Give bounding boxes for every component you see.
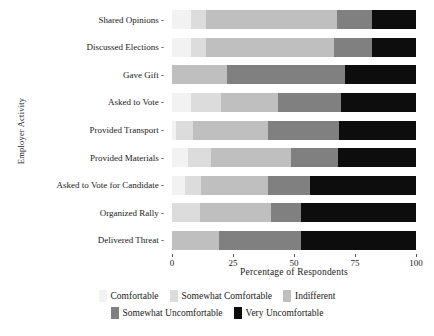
legend-item[interactable]: Very Uncomfortable (234, 307, 324, 319)
bar-segment (172, 203, 200, 222)
y-axis-tick-label: Organized Rally - (100, 208, 164, 218)
bar-segment (172, 176, 185, 195)
x-axis-title: Percentage of Respondents (172, 267, 416, 277)
legend-swatch-icon (234, 307, 242, 319)
bar-segment (206, 10, 338, 29)
bar-segment (221, 93, 278, 112)
legend-row-2: Somewhat UncomfortableVery Uncomfortable (0, 304, 434, 321)
chart-legend: ComfortableSomewhat ComfortableIndiffere… (0, 287, 434, 321)
legend-label: Indifferent (295, 290, 335, 302)
bar-segment (172, 148, 188, 167)
bar-segment (271, 203, 301, 222)
bar-segment (185, 176, 201, 195)
bar-segment (278, 93, 341, 112)
bar-segment (301, 203, 416, 222)
bar-row (172, 121, 416, 140)
bar-segment (172, 231, 219, 250)
bar-segment (219, 231, 301, 250)
bar-segment (191, 10, 205, 29)
bar-segment (172, 10, 191, 29)
y-axis-tick-label: Gave Gift - (123, 70, 164, 80)
legend-label: Somewhat Uncomfortable (123, 307, 223, 319)
bar-segment (341, 93, 416, 112)
y-axis-tick-label: Provided Materials - (90, 153, 164, 163)
bar-segment (201, 176, 268, 195)
chart-figure: Employer Activity Shared Opinions -Discu… (0, 0, 434, 336)
y-axis-tick-label: Asked to Vote for Candidate - (57, 180, 164, 190)
bar-segment (345, 65, 416, 84)
y-axis-tick-label: Asked to Vote - (108, 97, 164, 107)
bar-segment (339, 121, 416, 140)
y-axis-tick-label: Delivered Threat - (98, 235, 164, 245)
x-axis-tick (294, 254, 295, 257)
y-axis-tick-label: Shared Opinions - (99, 15, 165, 25)
legend-item[interactable]: Somewhat Uncomfortable (111, 307, 223, 319)
legend-swatch-icon (170, 290, 178, 302)
bar-row (172, 38, 416, 57)
x-axis-tick (233, 254, 234, 257)
bar-segment (211, 148, 291, 167)
bar-row (172, 231, 416, 250)
bar-row (172, 10, 416, 29)
bar-segment (227, 65, 345, 84)
legend-item[interactable]: Somewhat Comfortable (170, 290, 273, 302)
legend-item[interactable]: Comfortable (99, 290, 159, 302)
bar-segment (172, 38, 191, 57)
bar-segment (334, 38, 372, 57)
bar-segment (372, 38, 416, 57)
bar-segment (191, 93, 221, 112)
legend-swatch-icon (111, 307, 119, 319)
x-axis-tick (355, 254, 356, 257)
bar-row (172, 176, 416, 195)
bar-segment (193, 121, 268, 140)
bar-segment (310, 176, 416, 195)
plot-area (172, 6, 416, 254)
legend-row-1: ComfortableSomewhat ComfortableIndiffere… (0, 287, 434, 304)
bar-row (172, 65, 416, 84)
legend-label: Somewhat Comfortable (182, 290, 273, 302)
legend-swatch-icon (283, 290, 291, 302)
bar-row (172, 203, 416, 222)
bar-segment (200, 203, 272, 222)
bar-segment (301, 231, 416, 250)
bar-segment (338, 148, 416, 167)
legend-swatch-icon (99, 290, 107, 302)
legend-item[interactable]: Indifferent (283, 290, 335, 302)
y-axis-tick-labels: Shared Opinions -Discussed Elections -Ga… (0, 6, 168, 254)
x-axis-tick (416, 254, 417, 257)
bar-segment (268, 121, 339, 140)
bar-segment (268, 176, 310, 195)
bar-segment (206, 38, 334, 57)
y-axis-tick-label: Discussed Elections - (87, 42, 164, 52)
y-axis-tick-label: Provided Transport - (89, 125, 164, 135)
bar-segment (337, 10, 372, 29)
bar-segment (291, 148, 338, 167)
bar-segment (172, 93, 191, 112)
legend-label: Very Uncomfortable (246, 307, 324, 319)
bar-segment (191, 38, 205, 57)
legend-label: Comfortable (111, 290, 159, 302)
bar-segment (188, 148, 211, 167)
bar-row (172, 93, 416, 112)
bar-segment (372, 10, 416, 29)
x-axis-tick (172, 254, 173, 257)
bar-row (172, 148, 416, 167)
bar-segment (172, 65, 227, 84)
bar-segment (176, 121, 193, 140)
